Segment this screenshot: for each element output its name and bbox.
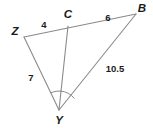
vertex-label-B: B: [138, 3, 146, 15]
vertex-label-Y: Y: [55, 115, 63, 127]
measure-label-ZC: 4: [41, 20, 46, 30]
angle-arc-CYB: [61, 91, 74, 98]
measure-label-YB: 10.5: [106, 64, 125, 74]
segment-CY: [59, 26, 68, 110]
geometry-figure: Z C B Y 4 6 7 10.5: [0, 0, 153, 128]
vertex-label-Z: Z: [11, 26, 18, 38]
vertex-label-C: C: [64, 9, 72, 21]
angle-arc-ZYC: [51, 91, 61, 93]
measure-label-ZY: 7: [28, 73, 33, 83]
figure-canvas: [0, 0, 153, 128]
segment-YB: [59, 14, 136, 110]
measure-label-CB: 6: [105, 13, 110, 23]
